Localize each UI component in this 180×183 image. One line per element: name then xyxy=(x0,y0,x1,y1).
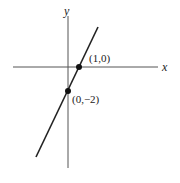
point-label-x-intercept: (1,0) xyxy=(89,52,110,65)
y-axis-label: y xyxy=(63,4,70,18)
coordinate-diagram: y x (1,0) (0,−2) xyxy=(0,0,180,183)
point-y-intercept xyxy=(65,88,71,94)
point-label-y-intercept: (0,−2) xyxy=(72,93,100,106)
point-x-intercept xyxy=(76,64,82,70)
x-axis-label: x xyxy=(161,60,168,74)
